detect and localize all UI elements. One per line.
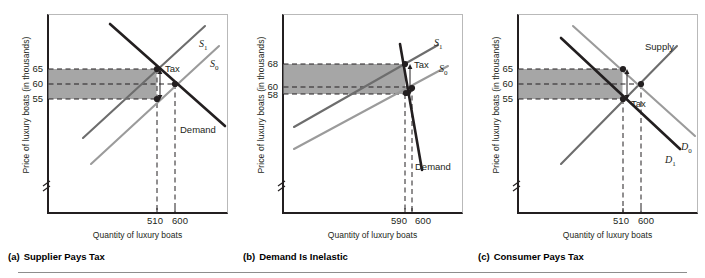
marker-price-seller-a xyxy=(154,96,160,102)
plot-area-a: 65 60 55 510 600 S1 S0 Demand Tax Quanti… xyxy=(47,14,228,214)
x-tick-label-a-0: 510 xyxy=(147,216,163,226)
curve-label-s0-a: S0 xyxy=(210,58,219,72)
panel-caption-a: (a)Supplier Pays Tax xyxy=(8,251,105,262)
marker-price-buyer-a xyxy=(154,66,160,72)
y-tick-label-a-1: 60 xyxy=(32,79,43,89)
y-tick-label-b-0: 68 xyxy=(267,59,278,69)
y-axis-break-upper-b xyxy=(278,181,285,186)
marker-price-buyer-b xyxy=(402,61,408,67)
y-axis-break-upper-a xyxy=(43,181,50,186)
tax-incidence-figure: Price of luxury boats (in thousands) xyxy=(0,0,705,278)
panel-caption-b: (b)Demand Is Inelastic xyxy=(243,251,348,262)
y-tick-label-b-2: 58 xyxy=(267,90,278,100)
plot-area-c: 65 60 55 510 600 Supply D0 D1 Tax Quanti… xyxy=(517,14,698,214)
panel-caption-text-a: Supplier Pays Tax xyxy=(24,251,105,262)
curve-label-d0-c: D0 xyxy=(681,141,692,155)
panel-caption-letter-c: (c) xyxy=(478,251,490,262)
tax-arrow-head-top-b xyxy=(408,64,413,69)
x-axis-title-a: Quantity of luxury boats xyxy=(47,230,228,240)
marker-price-buyer-c xyxy=(620,66,626,72)
curve-label-s1-b: S1 xyxy=(434,37,443,51)
x-tick-label-b-1: 600 xyxy=(415,216,431,226)
tax-shaded-band-b xyxy=(284,64,406,94)
panel-caption-text-b: Demand Is Inelastic xyxy=(259,251,348,262)
curve-label-s0-b: S0 xyxy=(439,63,448,77)
x-tick-label-c-0: 510 xyxy=(613,216,629,226)
marker-price-seller-c xyxy=(620,96,626,102)
curve-label-demand-a: Demand xyxy=(180,124,216,135)
x-tick-label-b-0: 590 xyxy=(391,216,407,226)
panel-caption-letter-a: (a) xyxy=(8,251,20,262)
marker-price-seller-b xyxy=(403,90,409,96)
x-tick-label-c-1: 600 xyxy=(638,216,654,226)
x-axis-title-b: Quantity of luxury boats xyxy=(282,230,463,240)
panel-caption-c: (c)Consumer Pays Tax xyxy=(478,251,584,262)
y-tick-label-a-2: 55 xyxy=(32,94,43,104)
x-tick-label-a-1: 600 xyxy=(172,216,188,226)
y-axis-break-lower-c xyxy=(513,186,520,191)
y-tick-label-c-2: 55 xyxy=(502,94,513,104)
curve-label-d1-c: D1 xyxy=(665,154,676,168)
tax-label-c: Tax xyxy=(631,98,646,109)
y-tick-label-c-1: 60 xyxy=(502,79,513,89)
marker-pretax-equilibrium-b xyxy=(409,85,415,91)
y-tick-label-a-0: 65 xyxy=(32,64,43,74)
y-axis-title-a: Price of luxury boats (in thousands) xyxy=(21,18,31,193)
y-tick-label-c-0: 65 xyxy=(502,64,513,74)
y-axis-break-upper-c xyxy=(513,181,520,186)
tax-label-a: Tax xyxy=(165,63,180,74)
panel-caption-text-c: Consumer Pays Tax xyxy=(494,251,584,262)
marker-pretax-equilibrium-c xyxy=(638,81,644,87)
panel-caption-letter-b: (b) xyxy=(243,251,255,262)
plot-area-b: 68 60 58 590 600 S1 S0 Demand Tax Quanti… xyxy=(282,14,463,214)
marker-pretax-equilibrium-a xyxy=(172,81,178,87)
panel-b-demand-is-inelastic: Price of luxury boats (in thousands) xyxy=(235,0,470,278)
y-axis-title-b: Price of luxury boats (in thousands) xyxy=(256,18,266,193)
curve-label-supply-c: Supply xyxy=(645,41,674,52)
y-axis-break-lower-b xyxy=(278,186,285,191)
figure-bottom-rule xyxy=(18,272,687,273)
panel-a-supplier-pays-tax: Price of luxury boats (in thousands) xyxy=(0,0,235,278)
curve-label-demand-b: Demand xyxy=(415,161,451,172)
y-axis-break-lower-a xyxy=(43,186,50,191)
x-axis-title-c: Quantity of luxury boats xyxy=(517,230,698,240)
curve-label-s1-a: S1 xyxy=(199,38,208,52)
y-axis-title-c: Price of luxury boats (in thousands) xyxy=(491,18,501,193)
panel-c-consumer-pays-tax: Price of luxury boats (in thousands) xyxy=(470,0,705,278)
tax-label-b: Tax xyxy=(414,59,429,70)
